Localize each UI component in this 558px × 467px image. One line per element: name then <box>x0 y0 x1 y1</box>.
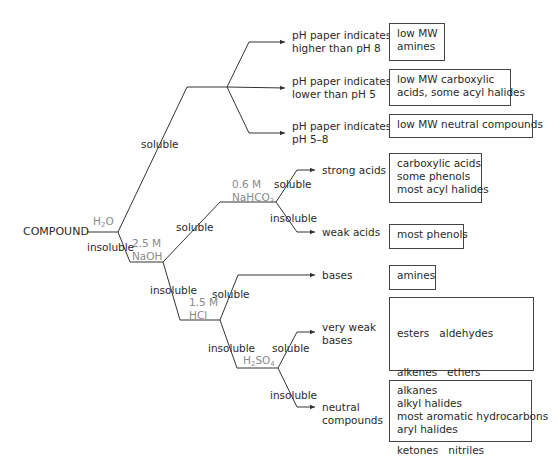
outcome-text: pH 5–8 <box>292 133 391 146</box>
result-line: aryl halides <box>397 423 524 436</box>
outcome-text: lower than pH 5 <box>292 88 391 101</box>
outcome-bases-label: bases <box>322 269 353 282</box>
outcome-text: pH paper indicates <box>292 29 391 42</box>
reagent-naoh: 2.5 M NaOH <box>132 237 162 263</box>
result-line: low MW <box>397 27 437 40</box>
reagent-h2so4: H2SO4 <box>243 354 275 371</box>
outcome-text: compounds <box>322 414 383 427</box>
result-line: alkyl halides <box>397 397 524 410</box>
label-naoh-insoluble: insoluble <box>150 284 197 297</box>
reagent-nahco3-sub: 3 <box>270 197 274 205</box>
outcome-strong-acids-label: strong acids <box>322 164 386 177</box>
reagent-h2so4-sub2: 4 <box>270 360 274 368</box>
outcome-text: bases <box>322 334 376 347</box>
result-line: low MW carboxylic <box>397 73 503 86</box>
reagent-naoh-conc: 2.5 M <box>132 237 162 250</box>
label-water-soluble: soluble <box>141 138 179 151</box>
reagent-water-h: H <box>93 215 101 227</box>
result-line: acids, some acyl halides <box>397 86 503 99</box>
outcome-text: pH paper indicates <box>292 75 391 88</box>
result-box-neutral-compounds: alkanes alkyl halides most aromatic hydr… <box>389 380 532 442</box>
result-line: esters aldehydes <box>397 327 526 340</box>
result-box-low-mw-amines: low MW amines <box>389 23 445 61</box>
label-h2so4-insoluble: insoluble <box>270 389 317 402</box>
label-nahco3-insoluble: insoluble <box>270 212 317 225</box>
reagent-nahco3: 0.6 M NaHCO3 <box>232 178 274 208</box>
result-line: amines <box>397 40 437 53</box>
result-box-strong-acids: carboxylic acids some phenols most acyl … <box>389 153 482 203</box>
result-line: most aromatic hydrocarbons <box>397 410 524 423</box>
result-line: carboxylic acids <box>397 157 474 170</box>
outcome-weak-acids-label: weak acids <box>322 226 380 239</box>
reagent-nahco3-conc: 0.6 M <box>232 178 274 191</box>
result-line: low MW neutral compounds <box>397 118 525 131</box>
label-nahco3-soluble: soluble <box>274 178 312 191</box>
label-h2so4-soluble: soluble <box>272 342 310 355</box>
result-line: some phenols <box>397 170 474 183</box>
result-box-low-mw-acids: low MW carboxylic acids, some acyl halid… <box>389 69 511 106</box>
reagent-naoh-name: NaOH <box>132 250 162 263</box>
result-box-very-weak-bases: esters aldehydes alkenes ethers alcohols… <box>389 297 534 371</box>
result-line: ketones nitriles <box>397 444 526 457</box>
label-naoh-soluble: soluble <box>176 221 214 234</box>
result-line: alkenes ethers <box>397 366 526 379</box>
reagent-water: H2O <box>93 215 114 232</box>
label-hcl-soluble: soluble <box>212 288 250 301</box>
outcome-ph-neutral-label: pH paper indicates pH 5–8 <box>292 120 391 146</box>
reagent-nahco3-name: NaHCO3 <box>232 191 274 208</box>
result-box-bases: amines <box>389 265 436 290</box>
outcome-text: neutral <box>322 401 383 414</box>
result-line: amines <box>397 269 428 282</box>
outcome-neutral-compounds-label: neutral compounds <box>322 401 383 427</box>
outcome-text: pH paper indicates <box>292 120 391 133</box>
label-water-insoluble: insoluble <box>87 241 134 254</box>
result-line: alkanes <box>397 384 524 397</box>
result-box-low-mw-neutral: low MW neutral compounds <box>389 114 533 138</box>
reagent-h2so4-h: H <box>243 354 251 366</box>
result-line: most phenols <box>397 228 456 241</box>
outcome-very-weak-bases-label: very weak bases <box>322 321 376 347</box>
outcome-text: very weak <box>322 321 376 334</box>
outcome-ph-high-label: pH paper indicates higher than pH 8 <box>292 29 391 55</box>
result-line: most acyl halides <box>397 183 474 196</box>
outcome-ph-low-label: pH paper indicates lower than pH 5 <box>292 75 391 101</box>
reagent-nahco3-base: NaHCO <box>232 191 270 203</box>
reagent-h2so4-so: SO <box>255 354 270 366</box>
result-box-weak-acids: most phenols <box>389 224 464 249</box>
reagent-hcl-name: HCl <box>189 309 218 322</box>
outcome-text: higher than pH 8 <box>292 42 391 55</box>
label-hcl-insoluble: insoluble <box>208 342 255 355</box>
root-compound-label: COMPOUND <box>23 225 89 238</box>
reagent-water-o: O <box>105 215 113 227</box>
